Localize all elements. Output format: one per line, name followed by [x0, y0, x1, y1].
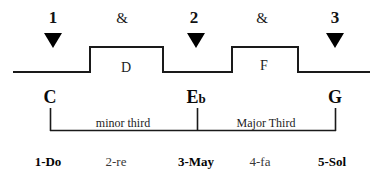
solfege-2-re: 2-re [106, 155, 127, 168]
music-rhythm-interval-diagram: 1 & 2 & 3 D F C Eb G minor third Major T… [0, 0, 381, 177]
interval-label-minor-third: minor third [96, 117, 150, 129]
interval-label-major-third: Major Third [237, 117, 296, 129]
solfege-5-sol: 5-Sol [318, 155, 346, 168]
interval-bracket [0, 0, 381, 177]
solfege-3-may: 3-May [178, 155, 214, 168]
solfege-1-do: 1-Do [35, 155, 62, 168]
solfege-4-fa: 4-fa [250, 155, 271, 168]
